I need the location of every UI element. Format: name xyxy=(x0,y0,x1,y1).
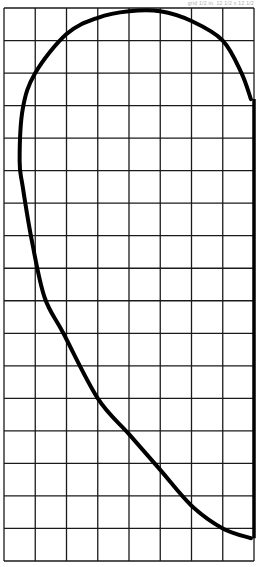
pattern-curve xyxy=(20,10,251,538)
pattern-diagram xyxy=(0,0,258,567)
